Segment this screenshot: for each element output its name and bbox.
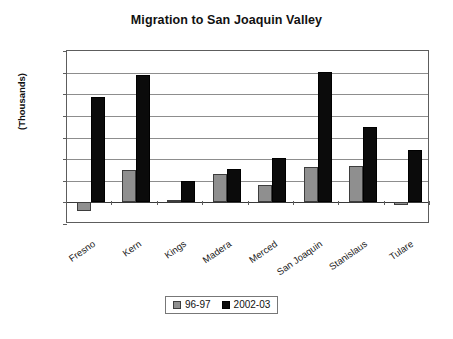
legend-swatch-icon (173, 301, 181, 309)
bar-stanislaus-2002-03 (363, 127, 377, 203)
bar-kings-96-97 (167, 200, 181, 202)
bar-kern-2002-03 (136, 75, 150, 203)
gridline-10 (67, 94, 428, 95)
gridline-8 (67, 116, 428, 117)
x-tick-mark (111, 201, 112, 205)
bar-tulare-2002-03 (408, 150, 422, 202)
bar-fresno-2002-03 (91, 97, 105, 202)
chart-title: Migration to San Joaquin Valley (0, 13, 453, 27)
x-tick-mark (429, 201, 430, 205)
y-tick-mark (63, 159, 67, 160)
bar-kern-96-97 (122, 170, 136, 202)
bar-san-joaquin-96-97 (304, 167, 318, 203)
legend-entry-96-97: 96-97 (173, 299, 211, 310)
bar-fresno-96-97 (77, 202, 91, 211)
bar-madera-2002-03 (227, 169, 241, 203)
gridline-12 (67, 73, 428, 74)
y-tick-mark (63, 51, 67, 52)
bar-tulare-96-97 (394, 202, 408, 204)
y-tick-mark (63, 73, 67, 74)
x-tick-mark (338, 201, 339, 205)
x-tick-mark (157, 201, 158, 205)
bar-chart: Migration to San Joaquin Valley (Thousan… (0, 0, 453, 339)
x-tick-mark (293, 201, 294, 205)
y-tick-mark (63, 94, 67, 95)
bar-merced-2002-03 (272, 158, 286, 202)
y-tick-mark (63, 181, 67, 182)
bar-madera-96-97 (213, 174, 227, 202)
legend-label: 96-97 (185, 299, 211, 310)
y-tick-mark (63, 224, 67, 225)
plot-area (66, 50, 429, 223)
y-tick-mark (63, 116, 67, 117)
legend-label: 2002-03 (234, 299, 271, 310)
chart-legend: 96-972002-03 (165, 296, 278, 314)
legend-entry-2002-03: 2002-03 (222, 299, 271, 310)
bar-kings-2002-03 (181, 181, 195, 203)
bar-stanislaus-96-97 (349, 166, 363, 203)
bar-merced-96-97 (258, 185, 272, 202)
legend-swatch-icon (222, 301, 230, 309)
y-tick-mark (63, 138, 67, 139)
x-tick-mark (202, 201, 203, 205)
y-tick-mark (63, 202, 67, 203)
x-tick-mark (384, 201, 385, 205)
y-axis-label: (Thousands) (16, 52, 27, 152)
bar-san-joaquin-2002-03 (318, 72, 332, 203)
x-tick-mark (248, 201, 249, 205)
